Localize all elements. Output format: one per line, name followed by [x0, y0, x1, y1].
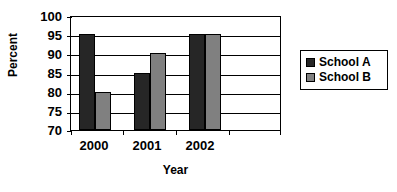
y-tick-label: 70: [28, 124, 62, 137]
x-axis-title: Year: [70, 163, 281, 177]
y-tick-mark-90: [67, 55, 72, 56]
y-tick-mark-85: [67, 75, 72, 76]
y-tick-label: 85: [28, 67, 62, 80]
x-tick-mark: [229, 130, 230, 135]
bar-school-b-2002: [205, 34, 221, 130]
legend-item-school-a: School A: [306, 55, 383, 70]
gridline-95: [71, 36, 280, 37]
bar-chart: Percent 100 95 90 85 80 75 70: [0, 0, 397, 192]
x-tick-label-2002: 2002: [170, 138, 230, 153]
legend-swatch-icon: [306, 73, 315, 82]
y-tick-label: 95: [28, 29, 62, 42]
legend-label: School B: [319, 71, 371, 84]
y-tick-mark-100: [67, 17, 72, 18]
plot-area: [70, 16, 281, 131]
y-tick-label: 80: [28, 86, 62, 99]
y-tick-mark-75: [67, 113, 72, 114]
y-tick-mark-80: [67, 94, 72, 95]
bar-school-a-2001: [134, 73, 150, 131]
y-tick-label: 90: [28, 48, 62, 61]
legend-item-school-b: School B: [306, 70, 383, 85]
y-axis-tick-labels: 100 95 90 85 80 75 70: [28, 0, 62, 192]
y-tick-label: 100: [28, 10, 62, 23]
bar-school-a-2000: [79, 34, 95, 130]
y-axis-title: Percent: [6, 20, 20, 90]
x-tick-mark: [71, 130, 72, 135]
legend: School A School B: [300, 50, 388, 90]
x-tick-mark: [176, 130, 177, 135]
gridline-90: [71, 55, 280, 56]
legend-label: School A: [319, 56, 371, 69]
bar-school-b-2000: [95, 92, 111, 130]
bar-school-a-2002: [189, 34, 205, 130]
legend-swatch-icon: [306, 58, 315, 67]
gridline-85: [71, 75, 280, 76]
x-tick-label-2000: 2000: [64, 138, 124, 153]
x-tick-label-2001: 2001: [117, 138, 177, 153]
x-tick-mark: [280, 130, 281, 135]
y-tick-mark-95: [67, 36, 72, 37]
bar-school-b-2001: [150, 53, 166, 130]
y-tick-label: 75: [28, 105, 62, 118]
x-tick-mark: [123, 130, 124, 135]
